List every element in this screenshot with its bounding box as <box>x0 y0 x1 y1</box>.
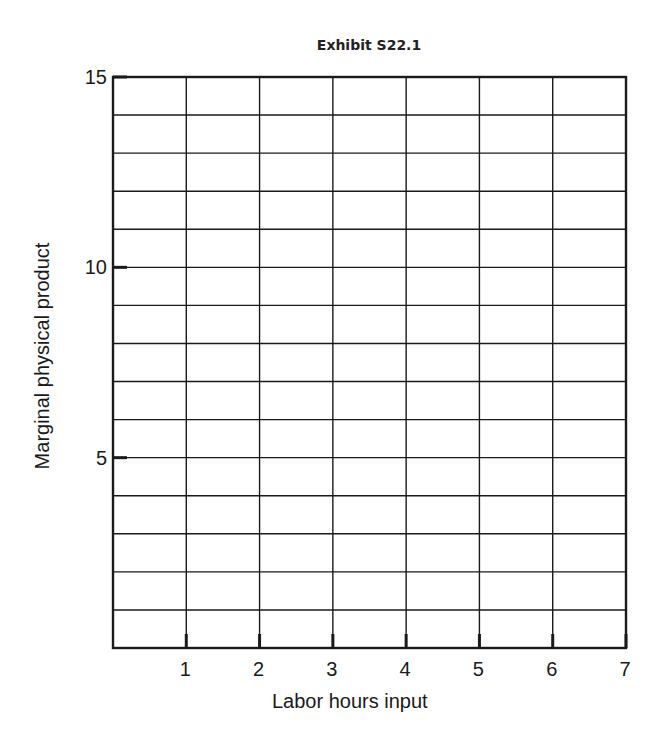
x-tick-label: 6 <box>546 658 557 680</box>
y-tick-label: 10 <box>85 256 107 278</box>
plot-area: 510151234567 <box>0 0 663 756</box>
axes <box>113 77 626 648</box>
x-tick-label: 3 <box>326 658 337 680</box>
plot-frame <box>113 77 626 648</box>
x-axis-label: Labor hours input <box>272 690 428 713</box>
x-tick-label: 2 <box>253 658 264 680</box>
x-tick-label: 4 <box>400 658 411 680</box>
tick-labels: 510151234567 <box>85 66 631 680</box>
y-tick-label: 15 <box>85 66 107 88</box>
grid-lines <box>113 77 626 648</box>
x-tick-label: 1 <box>180 658 191 680</box>
x-tick-label: 7 <box>619 658 630 680</box>
y-axis-label: Marginal physical product <box>31 243 54 470</box>
x-tick-label: 5 <box>473 658 484 680</box>
y-tick-label: 5 <box>96 447 107 469</box>
